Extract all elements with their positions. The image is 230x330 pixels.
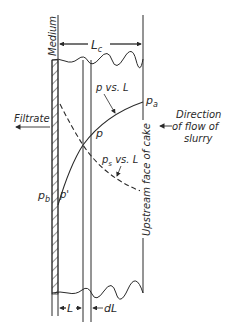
upstream-face-label: Upstream face of cake (141, 123, 152, 236)
p-vs-L-leader (104, 94, 115, 113)
cake-filtration-diagram: Lc Medium p vs. L pa Filtrate Direction … (0, 0, 230, 330)
dL-label: dL (104, 302, 117, 315)
ps-vs-L-leader (117, 166, 121, 176)
p-prime-label: p' (59, 189, 69, 200)
L-label: L (67, 302, 73, 315)
medium-label: Medium (47, 16, 58, 56)
bottom-wavy-edge (52, 281, 143, 299)
pb-label: pb (37, 189, 50, 204)
p-vs-L-label: p vs. L (95, 82, 129, 93)
direction-label-line2: of flow of (172, 121, 220, 132)
direction-label-line1: Direction (176, 109, 221, 120)
filter-medium (52, 60, 58, 294)
ps-vs-L-label: ps vs. L (101, 154, 138, 168)
filtrate-label: Filtrate (14, 113, 50, 124)
pa-label: pa (145, 94, 158, 109)
direction-label-line3: slurry (184, 133, 214, 144)
solid-pressure-curve (60, 104, 143, 192)
p-label: p (95, 127, 103, 140)
